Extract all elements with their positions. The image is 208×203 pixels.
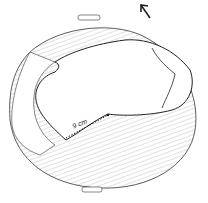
bottom-tab <box>82 187 102 192</box>
top-tab <box>78 15 100 20</box>
wound-diagram <box>0 0 208 203</box>
arrow-icon <box>141 5 150 18</box>
